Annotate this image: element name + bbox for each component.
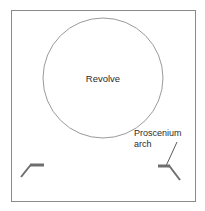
proscenium-label-line-2: arch xyxy=(134,139,152,149)
revolve-label: Revolve xyxy=(86,73,120,84)
stage-plan-figure: Revolve Proscenium arch xyxy=(0,0,205,211)
stage-plan-svg: Revolve Proscenium arch xyxy=(0,0,205,211)
proscenium-label-line-1: Proscenium xyxy=(134,128,182,138)
